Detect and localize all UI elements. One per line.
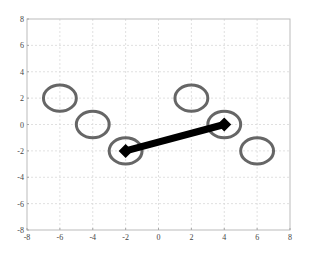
x-tick-label: -6: [57, 233, 64, 242]
y-tick-label: 4: [20, 68, 24, 77]
scatter-chart: -8-6-4-202468 -8-6-4-202468: [0, 0, 309, 260]
x-tick-label: 2: [189, 233, 193, 242]
line-segment: [119, 118, 232, 158]
y-tick-label: -2: [17, 147, 24, 156]
y-tick-label: 0: [20, 121, 24, 130]
x-tick-label: 4: [222, 233, 226, 242]
y-tick-label: -4: [17, 173, 24, 182]
y-tick-label: 6: [20, 41, 24, 50]
y-tick-label: -8: [17, 226, 24, 235]
x-tick-label: -4: [89, 233, 96, 242]
y-tick-label: 8: [20, 15, 24, 24]
x-tick-label: 8: [288, 233, 292, 242]
x-tick-label: -8: [24, 233, 31, 242]
y-tick-label: -6: [17, 200, 24, 209]
x-tick-label: 0: [157, 233, 161, 242]
x-tick-label: 6: [255, 233, 259, 242]
x-tick-label: -2: [122, 233, 129, 242]
segment-line: [126, 125, 225, 151]
y-tick-label: 2: [20, 94, 24, 103]
grid-lines: [27, 19, 290, 230]
